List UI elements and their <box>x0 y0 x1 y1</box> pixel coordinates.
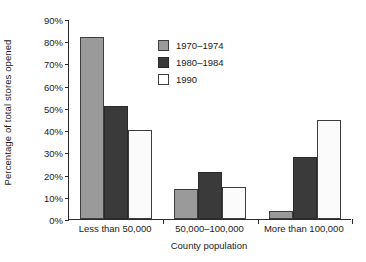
bar[interactable] <box>104 106 128 219</box>
legend-label: 1980–1984 <box>176 57 224 68</box>
bar[interactable] <box>317 120 341 219</box>
bar[interactable] <box>80 37 104 219</box>
x-axis-tick-mark <box>352 219 353 224</box>
legend-swatch-icon <box>158 57 169 68</box>
legend-item-1990: 1990 <box>158 72 224 86</box>
bar[interactable] <box>198 172 222 219</box>
x-axis-title: County population <box>68 240 350 251</box>
legend-swatch-icon <box>158 40 169 51</box>
bar[interactable] <box>293 157 317 219</box>
x-axis-tick-label: More than 100,000 <box>257 223 351 234</box>
legend-label: 1970–1974 <box>176 40 224 51</box>
legend-item-1970-1974: 1970–1974 <box>158 38 224 52</box>
legend-label: 1990 <box>176 74 197 85</box>
bar[interactable] <box>174 189 198 219</box>
legend-item-1980-1984: 1980–1984 <box>158 55 224 69</box>
bar[interactable] <box>269 211 293 219</box>
chart-legend: 1970–1974 1980–1984 1990 <box>158 38 224 89</box>
x-axis-tick-label: 50,000–100,000 <box>162 223 256 234</box>
bar-group <box>258 20 352 219</box>
bar-chart-figure: Percentage of total stores opened 90%80%… <box>0 0 366 262</box>
bar[interactable] <box>222 187 246 219</box>
y-axis-tick-mark <box>65 220 69 221</box>
y-axis-title: Percentage of total stores opened <box>0 0 16 225</box>
x-axis-tick-label: Less than 50,000 <box>68 223 162 234</box>
y-axis-title-label: Percentage of total stores opened <box>3 40 14 186</box>
legend-swatch-icon <box>158 74 169 85</box>
bar[interactable] <box>128 130 152 219</box>
bar-group <box>69 20 163 219</box>
